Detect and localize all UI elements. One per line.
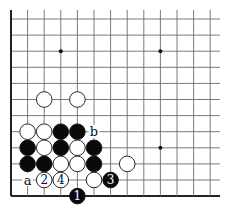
black-stone: [36, 156, 52, 172]
stone-circle: [53, 156, 69, 172]
stone-circle: [70, 92, 86, 108]
white-stone: [70, 140, 86, 156]
move-number: 1: [74, 189, 82, 203]
stone-circle: [119, 156, 135, 172]
star-point: [158, 146, 162, 150]
stone-circle: [36, 124, 52, 140]
stone-circle: [86, 140, 102, 156]
black-stone: [53, 124, 69, 140]
stone-circle: [70, 124, 86, 140]
stone-circle: [86, 172, 102, 188]
black-stone: [20, 140, 36, 156]
black-stone: [86, 140, 102, 156]
stone-circle: [86, 156, 102, 172]
stone-circle: [20, 156, 36, 172]
white-stone: [70, 156, 86, 172]
white-stone: [70, 92, 86, 108]
white-stone: [119, 156, 135, 172]
white-stone: [20, 124, 36, 140]
stone-circle: [36, 140, 52, 156]
white-stone: [36, 140, 52, 156]
white-stone: [36, 92, 52, 108]
point-mark-b: b: [90, 124, 98, 139]
stone-circle: [20, 124, 36, 140]
black-stone: [20, 156, 36, 172]
white-stone: 4: [53, 172, 69, 188]
stone-circle: [70, 156, 86, 172]
point-mark-a: a: [24, 173, 32, 188]
white-stone: 2: [36, 172, 52, 188]
white-stone: [53, 156, 69, 172]
black-stone: [86, 156, 102, 172]
move-number: 4: [57, 173, 65, 187]
black-stone: 3: [103, 172, 119, 188]
stone-circle: [36, 92, 52, 108]
white-stone: [86, 172, 102, 188]
stone-circle: [70, 140, 86, 156]
stone-circle: [53, 140, 69, 156]
move-number: 3: [107, 173, 115, 187]
star-point: [59, 49, 63, 53]
black-stone: [53, 140, 69, 156]
stone-circle: [53, 124, 69, 140]
stone-circle: [20, 140, 36, 156]
black-stone: 1: [70, 188, 86, 204]
white-stone: [36, 124, 52, 140]
move-number: 2: [40, 173, 48, 187]
black-stone: [70, 124, 86, 140]
star-point: [158, 49, 162, 53]
go-board: 2431 ab: [0, 0, 228, 209]
stone-circle: [36, 156, 52, 172]
